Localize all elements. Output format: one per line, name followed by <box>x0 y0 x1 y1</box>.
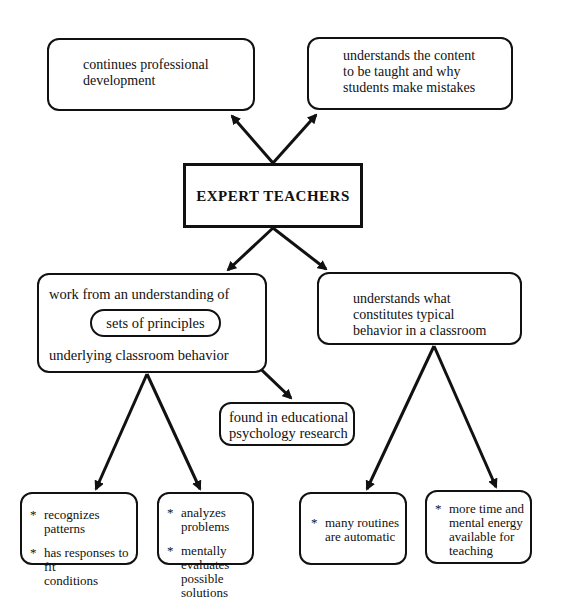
central-label: EXPERT TEACHERS <box>196 188 350 204</box>
node-sets-of-principles: sets of principles <box>90 309 221 337</box>
bullet-star-icon: * <box>30 546 44 588</box>
bullet-item: * recognizes patterns <box>30 508 132 536</box>
node-expert-teachers: EXPERT TEACHERS <box>183 163 363 228</box>
node-research: found in educational psychology research <box>219 402 355 446</box>
arrow-to-content-understanding <box>273 115 316 163</box>
arrow-to-bottom-box-3 <box>367 346 434 489</box>
bullet-item: * more time and mental energy available … <box>435 502 526 558</box>
bullet-star-icon: * <box>167 544 181 600</box>
node-time-energy: * more time and mental energy available … <box>425 490 532 564</box>
bullet-star-icon: * <box>167 506 181 534</box>
bullet-star-icon: * <box>30 508 44 536</box>
node-text: understands what constitutes typical beh… <box>353 291 486 339</box>
bullet-item: * mentally evaluates possible solutions <box>167 544 248 600</box>
arrow-to-typical-behavior-box <box>273 228 326 269</box>
node-recognizes-patterns: * recognizes patterns * has responses to… <box>20 492 138 565</box>
node-analyzes-problems: * analyzes problems * mentally evaluates… <box>157 492 254 565</box>
pill-label: sets of principles <box>106 315 204 331</box>
node-text: found in educational psychology research <box>229 409 348 441</box>
arrow-to-bottom-box-2 <box>147 374 200 489</box>
node-text: continues professional development <box>83 57 209 89</box>
node-automatic-routines: * many routines are automatic <box>299 492 407 565</box>
bullet-item: * many routines are automatic <box>311 516 401 544</box>
principles-line-2: underlying classroom behavior <box>49 347 229 363</box>
node-content-understanding: understands the content to be taught and… <box>307 37 513 110</box>
arrow-to-principles-box <box>228 228 273 270</box>
arrow-to-bottom-box-1 <box>96 374 147 489</box>
bullet-star-icon: * <box>311 516 325 544</box>
arrow-to-bottom-box-4 <box>434 346 496 487</box>
bullet-item: * has responses to fit conditions <box>30 546 132 588</box>
principles-line-1: work from an understanding of <box>49 286 229 302</box>
node-typical-behavior: understands what constitutes typical beh… <box>317 272 522 345</box>
node-text: understands the content to be taught and… <box>343 48 475 96</box>
bullet-item: * analyzes problems <box>167 506 248 534</box>
bullet-star-icon: * <box>435 502 449 558</box>
node-professional-development: continues professional development <box>47 38 255 111</box>
arrow-to-professional-development <box>232 116 273 163</box>
